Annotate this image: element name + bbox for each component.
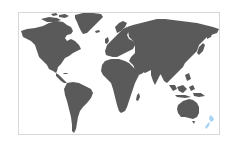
region-new-zealand[interactable] (205, 115, 214, 129)
region-south-america[interactable] (64, 82, 93, 133)
region-australia[interactable] (177, 99, 199, 124)
region-asia[interactable] (127, 19, 219, 85)
map-stage: New Zealand (0, 0, 236, 145)
region-southeast-asia[interactable] (169, 73, 205, 98)
world-map-svg (18, 12, 220, 135)
region-north-america[interactable] (21, 13, 81, 83)
world-map (18, 12, 220, 135)
highlighted-region-label: New Zealand (0, 0, 1, 1)
